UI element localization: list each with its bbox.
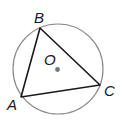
label-vertex-b: B xyxy=(34,9,44,26)
diagram-canvas: B O C A xyxy=(0,0,123,125)
label-center-o: O xyxy=(44,51,56,68)
label-vertex-a: A xyxy=(6,96,17,113)
triangle-abc xyxy=(21,28,100,97)
center-point-o xyxy=(55,67,60,72)
inscribed-triangle-diagram: B O C A xyxy=(0,0,123,125)
label-vertex-c: C xyxy=(104,82,115,99)
